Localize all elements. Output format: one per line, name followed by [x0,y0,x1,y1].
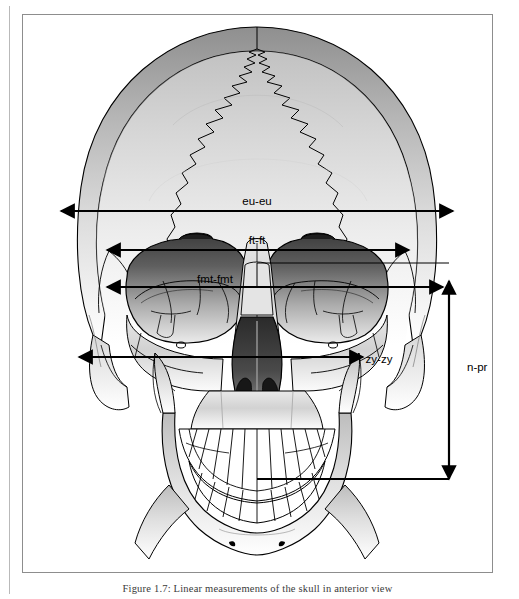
label-n-pr: n-pr [467,361,488,373]
label-fmt-fmt: fmt-fmt [197,273,234,285]
figure-caption: Figure 1.7: Linear measurements of the s… [22,583,493,594]
figure-frame: eu-eu ft-ft fmt-fmt zy-zy n-pr [22,14,493,573]
figure-page: eu-eu ft-ft fmt-fmt zy-zy n-pr Figure 1.… [0,0,519,599]
page-gutter-rule [9,6,10,594]
skull-anterior-diagram: eu-eu ft-ft fmt-fmt zy-zy n-pr [23,15,492,572]
label-zy-zy: zy-zy [366,353,393,365]
label-eu-eu: eu-eu [242,195,271,207]
label-ft-ft: ft-ft [249,234,266,246]
